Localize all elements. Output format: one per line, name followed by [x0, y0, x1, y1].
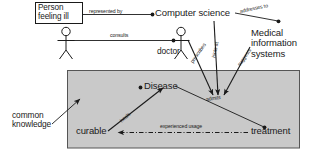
node-curable: curable	[76, 126, 106, 136]
node-person-feeling-ill: Person feeling ill	[38, 4, 69, 21]
node-common-knowledge: common knowledge	[12, 111, 51, 129]
node-disease: Disease	[144, 81, 178, 91]
edge-common-knowledge-pointer	[52, 99, 80, 124]
node-computer-science: Computer science	[155, 8, 230, 18]
node-treatment: treatment	[251, 126, 290, 136]
edge-heals	[108, 88, 163, 131]
edge-admits	[175, 86, 264, 127]
patient-stick-figure	[58, 27, 75, 59]
node-doctor: doctor	[157, 47, 180, 56]
edge-consults-endpoint	[172, 39, 176, 43]
edge-label-experienced-usage: experienced usage	[160, 124, 202, 130]
node-medical-information-systems: Medical information systems	[251, 28, 297, 59]
edge-label-represented-by: represented by	[89, 9, 122, 15]
diagram-canvas: Person feeling ill Computer science Medi…	[0, 0, 314, 157]
disease-endpoint-dot	[139, 86, 143, 90]
edge-addresses-to-endpoint	[277, 19, 281, 23]
edge-represented-by-endpoint	[151, 13, 155, 17]
edge-label-consults: consults	[110, 33, 128, 39]
